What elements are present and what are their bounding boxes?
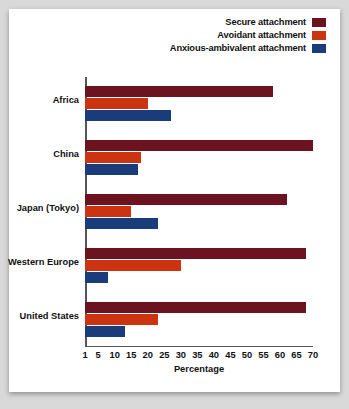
plot-area: AfricaChinaJapan (Tokyo)Western EuropeUn…	[85, 77, 313, 347]
legend-color-swatch	[312, 44, 326, 53]
x-tick-label: 1	[82, 350, 87, 360]
x-tick-label: 65	[291, 350, 301, 360]
category-label: United States	[20, 311, 79, 321]
bar	[85, 164, 138, 175]
x-tick-label: 5	[96, 350, 101, 360]
bar	[85, 140, 313, 151]
bar	[85, 326, 125, 337]
x-tick-label: 40	[209, 350, 219, 360]
legend-item: Anxious-ambivalent attachment	[170, 43, 326, 53]
bar	[85, 110, 171, 121]
legend-item-label: Anxious-ambivalent attachment	[170, 43, 306, 53]
x-tick-label: 35	[192, 350, 202, 360]
bar	[85, 314, 158, 325]
bar-group: United States	[85, 302, 313, 342]
x-axis-ticks: 1510152025303540455055606570	[85, 350, 313, 364]
x-axis-title: Percentage	[85, 364, 313, 374]
bar	[85, 302, 306, 313]
x-tick-label: 70	[308, 350, 318, 360]
x-tick-label: 55	[258, 350, 268, 360]
bar-group: Western Europe	[85, 248, 313, 288]
legend-item: Secure attachment	[225, 17, 326, 27]
category-label: Japan (Tokyo)	[17, 203, 79, 213]
bar	[85, 194, 287, 205]
x-axis-line	[85, 346, 313, 348]
category-label: China	[53, 149, 79, 159]
x-tick-label: 20	[143, 350, 153, 360]
x-tick-label: 50	[242, 350, 252, 360]
chart-legend: Secure attachmentAvoidant attachmentAnxi…	[170, 17, 326, 53]
bar-group: Japan (Tokyo)	[85, 194, 313, 234]
bar-chart: Secure attachmentAvoidant attachmentAnxi…	[9, 9, 340, 392]
category-label: Africa	[53, 95, 79, 105]
x-tick-label: 60	[275, 350, 285, 360]
bar	[85, 248, 306, 259]
bar	[85, 152, 141, 163]
bar	[85, 218, 158, 229]
bar	[85, 206, 131, 217]
x-tick-label: 10	[110, 350, 120, 360]
x-tick-label: 15	[126, 350, 136, 360]
bar	[85, 98, 148, 109]
legend-item: Avoidant attachment	[217, 30, 326, 40]
category-label: Western Europe	[8, 257, 79, 267]
legend-color-swatch	[312, 31, 326, 40]
legend-color-swatch	[312, 18, 326, 27]
bar	[85, 260, 181, 271]
x-tick-label: 30	[176, 350, 186, 360]
chart-card: Secure attachmentAvoidant attachmentAnxi…	[9, 9, 340, 392]
bar	[85, 86, 273, 97]
bar-group: China	[85, 140, 313, 180]
legend-item-label: Avoidant attachment	[217, 30, 306, 40]
x-tick-label: 25	[159, 350, 169, 360]
bar-group: Africa	[85, 86, 313, 126]
x-tick-label: 45	[225, 350, 235, 360]
legend-item-label: Secure attachment	[225, 17, 306, 27]
bar	[85, 272, 108, 283]
